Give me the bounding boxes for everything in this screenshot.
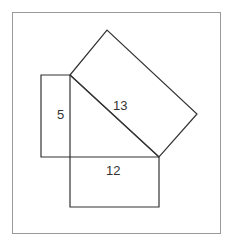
label-short-leg: 5	[57, 107, 64, 122]
hypotenuse-rectangle	[70, 30, 197, 157]
label-hypotenuse: 13	[113, 98, 127, 113]
hypotenuse-line	[70, 75, 159, 157]
left-rectangle	[41, 75, 70, 157]
pythagorean-diagram: 5 13 12	[0, 0, 233, 246]
label-long-leg: 12	[106, 163, 120, 178]
